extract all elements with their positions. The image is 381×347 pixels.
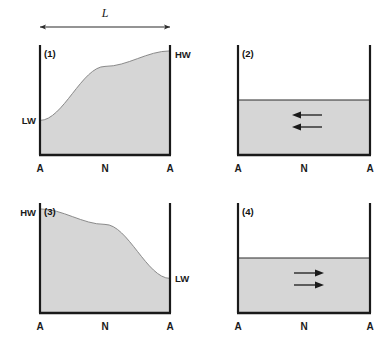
right-level-label: HW [175, 49, 191, 60]
panel-3: (3) HW LW A N A [20, 203, 189, 332]
panel-1: (1) LW HW A N A [22, 45, 191, 174]
left-level-label: HW [20, 207, 36, 218]
axis-label-left: A [36, 163, 43, 174]
axis-label-center: N [101, 163, 108, 174]
panel-label: (2) [242, 48, 254, 59]
axis-label-right: A [166, 321, 173, 332]
axis-label-center: N [300, 163, 307, 174]
axis-label-left: A [234, 163, 241, 174]
axis-label-center: N [101, 321, 108, 332]
right-level-label: LW [175, 273, 189, 284]
axis-label-center: N [300, 321, 307, 332]
dimension-label: L [101, 6, 109, 20]
panel-2: (2) A N A [234, 45, 373, 174]
axis-label-left: A [234, 321, 241, 332]
panel-label: (4) [242, 206, 254, 217]
left-level-label: LW [22, 115, 36, 126]
panel-4: (4) A N A [234, 203, 373, 332]
axis-label-right: A [366, 321, 373, 332]
panel-label: (3) [44, 206, 56, 217]
axis-label-left: A [36, 321, 43, 332]
axis-label-right: A [366, 163, 373, 174]
seiche-phase-diagram: L (1) LW HW A N A (2) [0, 0, 381, 347]
dimension-arrow-L: L [40, 6, 170, 27]
axis-label-right: A [166, 163, 173, 174]
panel-label: (1) [44, 48, 56, 59]
diagram-canvas: L (1) LW HW A N A (2) [0, 0, 381, 347]
